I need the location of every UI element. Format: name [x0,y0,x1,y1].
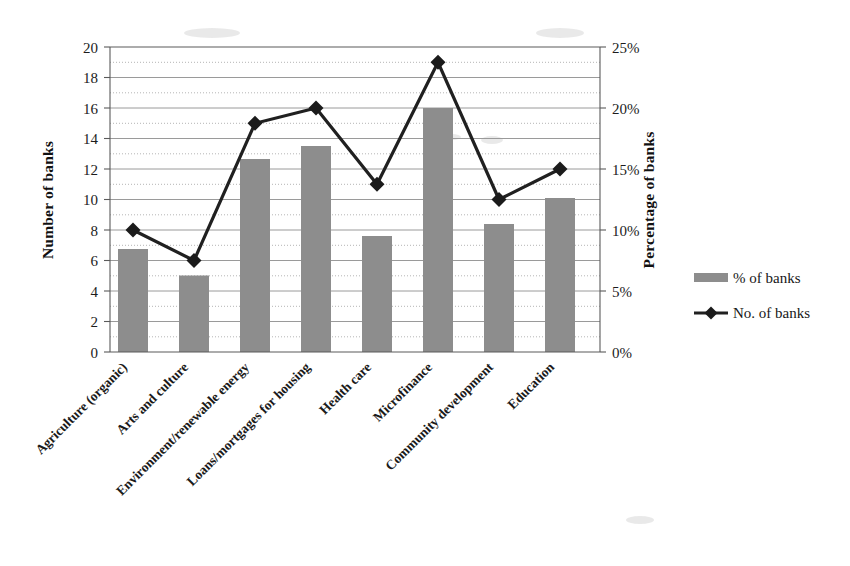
left-axis-tick-labels: 20 18 16 14 12 10 8 6 4 2 0 [83,40,99,361]
bar-community-development [484,224,514,352]
legend-label-no-of-banks: No. of banks [733,305,810,321]
chart-figure: 20 18 16 14 12 10 8 6 4 2 0 25% 20% 15% … [0,0,850,566]
left-tick-12: 12 [83,162,98,178]
left-tick-0: 0 [91,345,99,361]
left-axis-ticks [104,47,110,352]
cat-label-environment-renewable: Environment/renewable energy [113,359,252,498]
cat-label-loans-mortgages-housing: Loans/mortgages for housing [184,359,313,488]
bar-environment-renewable [240,159,270,352]
legend-label-percent-of-banks: % of banks [733,270,801,286]
right-axis-title: Percentage of banks [640,132,657,269]
legend-marker-diamond [705,307,718,320]
cat-label-microfinance: Microfinance [370,360,435,425]
bar-arts-and-culture [179,276,209,353]
left-tick-16: 16 [83,101,99,117]
marker-arts-and-culture [187,253,202,268]
bar-agriculture-organic [118,249,148,352]
right-tick-0: 0% [612,345,632,361]
left-tick-10: 10 [83,192,98,208]
right-axis-ticks [600,47,606,352]
chart-canvas: 20 18 16 14 12 10 8 6 4 2 0 25% 20% 15% … [0,0,850,566]
marker-education [553,162,568,177]
legend-item-no-of-banks[interactable]: No. of banks [694,305,810,321]
right-tick-15: 15% [612,162,640,178]
legend-item-percent-of-banks[interactable]: % of banks [694,270,801,286]
left-tick-2: 2 [91,314,99,330]
left-tick-18: 18 [83,70,98,86]
legend: % of banks No. of banks [694,270,810,321]
left-tick-14: 14 [83,131,99,147]
left-tick-20: 20 [83,40,98,56]
left-tick-8: 8 [91,223,99,239]
marker-agriculture-organic [126,223,141,238]
marker-community-development [492,192,507,207]
marker-environment-renewable [248,116,263,131]
right-tick-20: 20% [612,101,640,117]
right-tick-10: 10% [612,223,640,239]
left-axis-title: Number of banks [39,141,56,259]
bar-health-care [362,236,392,352]
cat-label-health-care: Health care [316,360,374,418]
right-tick-25: 25% [612,40,640,56]
left-tick-6: 6 [91,253,99,269]
bar-education [545,198,575,352]
cat-label-education: Education [505,359,558,412]
marker-microfinance [431,55,446,70]
right-tick-5: 5% [612,284,632,300]
category-labels: Agriculture (organic) Arts and culture E… [32,359,557,498]
cat-label-agriculture-organic: Agriculture (organic) [32,360,130,458]
legend-swatch-bar [694,273,728,282]
bar-loans-mortgages-housing [301,146,331,352]
cat-label-community-development: Community development [382,359,496,473]
bar-microfinance [423,108,453,352]
left-tick-4: 4 [91,284,99,300]
right-axis-tick-labels: 25% 20% 15% 10% 5% 0% [612,40,640,361]
